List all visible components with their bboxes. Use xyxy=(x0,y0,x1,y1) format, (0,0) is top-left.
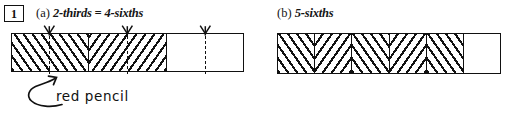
part-a-sixth-mark-2 xyxy=(127,31,128,74)
part-a-label: 2-thirds = 4-sixths xyxy=(53,6,143,20)
part-b-fraction-bar xyxy=(277,33,501,74)
exercise-number: 1 xyxy=(11,8,17,20)
part-b-label: 5-sixths xyxy=(295,6,334,20)
figure-fraction-bars: 1 (a) 2-thirds = 4-sixths (b) 5-sixths xyxy=(0,0,513,116)
part-a-sixth-mark-3 xyxy=(205,31,206,74)
exercise-number-box: 1 xyxy=(4,5,24,22)
part-b-caption: (b) 5-sixths xyxy=(277,7,333,20)
arrow-down-icon xyxy=(43,25,54,35)
part-a-caption: (a) 2-thirds = 4-sixths xyxy=(36,7,143,20)
part-b-cell-1 xyxy=(278,34,315,73)
part-a-tag: (a) xyxy=(36,6,50,20)
arrow-down-icon xyxy=(199,25,210,35)
part-b-cell-2 xyxy=(315,34,352,73)
part-b-cell-5 xyxy=(427,34,464,73)
part-a-cell-1 xyxy=(12,34,89,71)
part-b-cell-4 xyxy=(390,34,427,73)
annotation-text: red pencil xyxy=(56,88,129,104)
part-b-cell-6 xyxy=(464,34,500,73)
part-a-sixth-mark-1 xyxy=(49,31,50,74)
part-b-tag: (b) xyxy=(277,6,292,20)
arrow-down-icon xyxy=(121,25,132,35)
part-b-cell-3 xyxy=(352,34,389,73)
